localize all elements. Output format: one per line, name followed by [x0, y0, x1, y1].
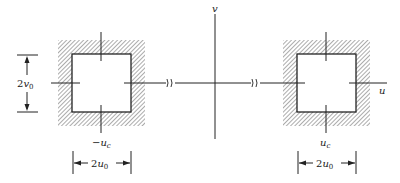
axis-break-left-icon	[166, 78, 175, 88]
left-width-dimension: 2u0	[73, 151, 131, 174]
right-inner-square	[297, 54, 356, 112]
arrow-left-icon	[74, 161, 81, 166]
right-width-dimension: 2u0	[298, 151, 356, 174]
u-axis-label: u	[379, 85, 385, 96]
arrow-left-icon	[299, 161, 306, 166]
arrow-right-icon	[123, 161, 130, 166]
arrow-down-icon	[25, 104, 30, 111]
right-center-label: uc	[320, 137, 330, 150]
svg-text:2u0: 2u0	[316, 158, 333, 171]
height-label: 2v0	[17, 78, 34, 91]
frequency-diagram: v u 2v0 −uc 2u0 uc	[0, 0, 400, 183]
left-inner-square	[72, 54, 131, 112]
left-center-label: −uc	[92, 137, 111, 150]
left-passband	[51, 32, 145, 133]
svg-text:−uc: −uc	[92, 137, 111, 150]
svg-text:uc: uc	[320, 137, 330, 150]
svg-text:2u0: 2u0	[91, 158, 108, 171]
axis-break-right-icon	[251, 78, 260, 88]
v-axis-label: v	[212, 3, 218, 14]
arrow-up-icon	[25, 56, 30, 63]
right-passband	[283, 32, 387, 133]
arrow-right-icon	[348, 161, 355, 166]
height-dimension: 2v0	[17, 55, 38, 112]
